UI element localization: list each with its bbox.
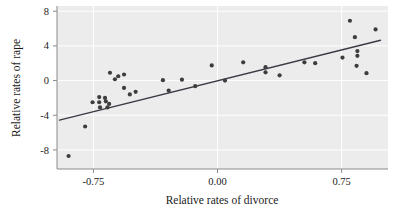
y-tick-label: 0 bbox=[44, 75, 49, 86]
scatter-point bbox=[97, 95, 101, 99]
scatter-point bbox=[104, 99, 108, 103]
scatter-point bbox=[108, 71, 112, 75]
scatter-point bbox=[353, 35, 357, 39]
y-tick-label: -8 bbox=[40, 145, 49, 156]
scatter-point bbox=[98, 105, 102, 109]
scatter-point bbox=[373, 27, 377, 31]
scatter-point bbox=[302, 60, 306, 64]
scatter-point bbox=[210, 63, 214, 67]
scatter-point bbox=[122, 72, 126, 76]
scatter-point bbox=[313, 61, 317, 65]
y-tick-label: 4 bbox=[44, 40, 50, 51]
scatter-point bbox=[113, 77, 117, 81]
scatter-point bbox=[66, 154, 70, 158]
scatter-point bbox=[364, 71, 368, 75]
y-tick-label: 8 bbox=[44, 6, 49, 17]
scatter-point bbox=[180, 78, 184, 82]
scatter-point bbox=[122, 86, 126, 90]
scatter-point bbox=[354, 64, 358, 68]
scatter-point bbox=[355, 49, 359, 53]
scatter-point bbox=[90, 100, 94, 104]
scatter-point bbox=[83, 124, 87, 128]
scatter-point bbox=[167, 88, 171, 92]
scatter-point bbox=[107, 102, 111, 106]
scatter-point bbox=[161, 78, 165, 82]
scatter-point bbox=[116, 74, 120, 78]
scatter-point bbox=[263, 65, 267, 69]
scatter-point bbox=[128, 92, 132, 96]
scatter-point bbox=[355, 54, 359, 58]
y-axis-tick-labels: 840-4-8 bbox=[40, 6, 50, 156]
scatter-plot-figure: 840-4-8 -0.750.000.75 Relative rates of … bbox=[0, 0, 413, 217]
scatter-point bbox=[277, 73, 281, 77]
scatter-point bbox=[241, 60, 245, 64]
y-axis-ticks bbox=[53, 11, 57, 150]
x-tick-label: 0.00 bbox=[208, 176, 226, 187]
x-tick-label: 0.75 bbox=[332, 176, 350, 187]
y-tick-label: -4 bbox=[40, 110, 49, 121]
scatter-point bbox=[223, 78, 227, 82]
plot-panel-background bbox=[57, 6, 388, 169]
scatter-point bbox=[340, 55, 344, 59]
scatter-point bbox=[134, 90, 138, 94]
chart-canvas: 840-4-8 -0.750.000.75 Relative rates of … bbox=[0, 0, 413, 217]
x-axis-ticks bbox=[93, 169, 341, 173]
scatter-point bbox=[348, 19, 352, 23]
y-axis-title: Relative rates of rape bbox=[10, 39, 23, 137]
x-axis-title: Relative rates of divorce bbox=[166, 194, 279, 206]
scatter-point bbox=[97, 100, 101, 104]
scatter-point bbox=[263, 70, 267, 74]
scatter-point bbox=[193, 84, 197, 88]
x-axis-tick-labels: -0.750.000.75 bbox=[82, 176, 350, 187]
x-tick-label: -0.75 bbox=[82, 176, 104, 187]
